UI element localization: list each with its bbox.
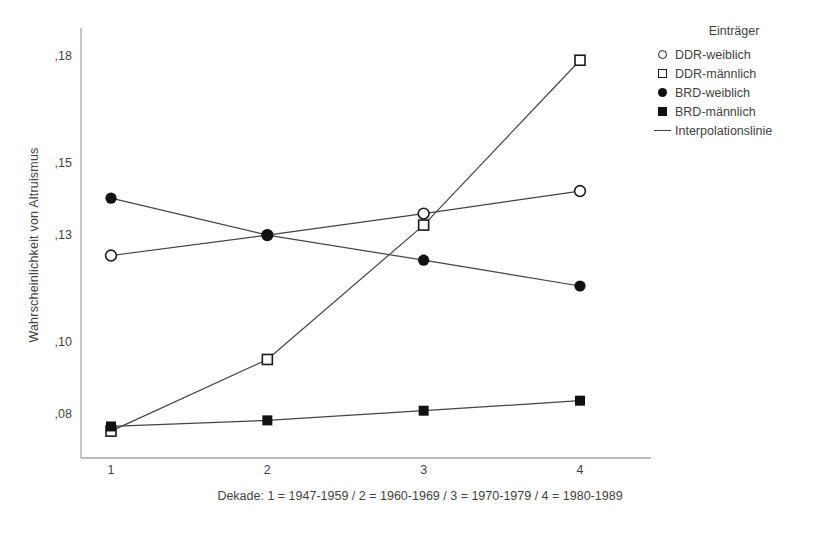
series-brd-weiblich	[111, 198, 580, 286]
interpolation-line	[111, 191, 580, 256]
markers-ddr-männlich	[106, 55, 585, 436]
interpolation-line	[111, 401, 580, 427]
legend-item: Interpolationslinie	[652, 121, 822, 140]
x-tick-label: 3	[409, 463, 439, 477]
data-point-marker	[418, 208, 429, 219]
open-square-icon	[652, 64, 672, 83]
series-ddr-männlich	[111, 60, 580, 431]
legend-item-label: BRD-weiblich	[672, 86, 750, 100]
y-tick-label: ,08	[38, 407, 72, 421]
legend-title: Einträger	[658, 24, 810, 38]
markers-ddr-weiblich	[106, 186, 586, 261]
open-circle-icon	[652, 45, 672, 64]
x-axis-caption: Dekade: 1 = 1947-1959 / 2 = 1960-1969 / …	[120, 489, 720, 503]
data-point-marker	[575, 396, 585, 406]
filled-square-icon	[652, 102, 672, 121]
interpolation-line	[111, 198, 580, 286]
legend-item-label: DDR-männlich	[672, 67, 756, 81]
filled-square-icon-glyph	[658, 107, 667, 116]
series-brd-männlich	[111, 401, 580, 427]
data-point-marker	[105, 193, 116, 204]
open-circle-icon-glyph	[658, 50, 667, 59]
data-point-marker	[262, 230, 273, 241]
x-tick-label: 4	[565, 463, 595, 477]
data-point-marker	[574, 280, 585, 291]
series-layer	[105, 55, 585, 436]
data-point-marker	[575, 55, 585, 65]
data-point-marker	[575, 186, 586, 197]
line-icon-glyph	[654, 130, 671, 131]
chart-container: Wahrscheinlichkeit von Altruismus ,08,10…	[0, 0, 825, 536]
line-icon	[652, 121, 672, 140]
markers-brd-weiblich	[105, 193, 585, 292]
y-tick-label: ,10	[38, 335, 72, 349]
legend-item-label: DDR-weiblich	[672, 48, 751, 62]
legend-item: DDR-weiblich	[652, 45, 822, 64]
x-tick-label: 1	[96, 463, 126, 477]
y-tick-label: ,13	[38, 228, 72, 242]
filled-circle-icon-glyph	[658, 88, 667, 97]
data-point-marker	[106, 421, 116, 431]
legend-item: BRD-männlich	[652, 102, 822, 121]
chart-legend: Einträger DDR-weiblichDDR-männlichBRD-we…	[652, 24, 822, 140]
legend-item-label: Interpolationslinie	[672, 124, 772, 138]
interpolation-line	[111, 60, 580, 431]
data-point-marker	[262, 354, 272, 364]
legend-item: DDR-männlich	[652, 64, 822, 83]
legend-item-label: BRD-männlich	[672, 105, 756, 119]
data-point-marker	[106, 250, 117, 261]
data-point-marker	[262, 415, 272, 425]
filled-circle-icon	[652, 83, 672, 102]
open-square-icon-glyph	[658, 69, 667, 78]
y-tick-label: ,18	[38, 49, 72, 63]
data-point-marker	[419, 220, 429, 230]
y-tick-label: ,15	[38, 156, 72, 170]
data-point-marker	[419, 406, 429, 416]
x-tick-label: 2	[252, 463, 282, 477]
data-point-marker	[418, 255, 429, 266]
legend-item: BRD-weiblich	[652, 83, 822, 102]
series-ddr-weiblich	[111, 191, 580, 256]
